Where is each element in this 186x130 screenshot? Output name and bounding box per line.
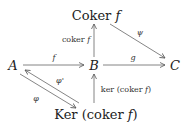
arrow-phi xyxy=(20,74,76,108)
label-phi: φ xyxy=(33,95,39,103)
label-psi: ψ xyxy=(137,29,143,37)
label-f: f xyxy=(53,54,56,62)
label-coker-f: coker f xyxy=(62,36,90,44)
node-c: C xyxy=(170,59,180,72)
node-a: A xyxy=(8,59,17,72)
node-b: B xyxy=(89,59,99,72)
node-coker-f: Coker f xyxy=(72,9,121,22)
node-ker-coker-f: Ker (coker f) xyxy=(54,108,137,121)
label-g: g xyxy=(130,54,135,62)
label-ker-coker-f: ker (coker f) xyxy=(101,86,151,94)
label-phi-prime: φ' xyxy=(56,77,64,85)
